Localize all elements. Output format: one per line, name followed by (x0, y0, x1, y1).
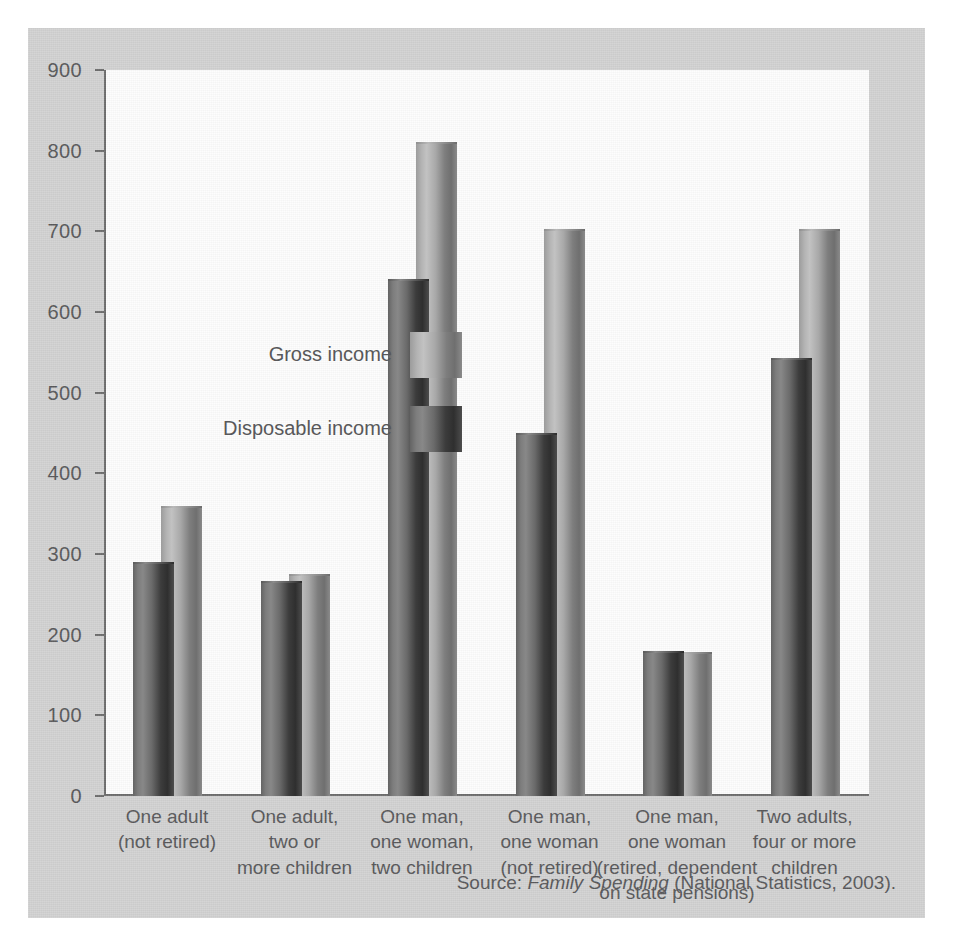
bar-top-cap (516, 433, 557, 435)
legend-item-gross: Gross income (202, 332, 462, 378)
bar-top-cap (544, 229, 585, 231)
y-tick: 700 (95, 230, 104, 232)
y-tick: 100 (95, 714, 104, 716)
bar-top-cap (643, 651, 684, 653)
bar-top-cap (289, 574, 330, 576)
source-suffix: (National Statistics, 2003). (669, 872, 896, 893)
bar-disposable-income (771, 358, 812, 796)
bar-disposable-income (643, 651, 684, 796)
y-tick: 0 (95, 795, 104, 797)
y-tick: 300 (95, 553, 104, 555)
bar-top-cap (161, 506, 202, 508)
chart-figure: 0100200300400500600700800900 Gross incom… (28, 28, 925, 918)
legend-item-disposable: Disposable income (202, 406, 462, 452)
y-tick-label: 0 (70, 785, 82, 808)
y-tick-label: 100 (47, 704, 82, 727)
y-tick: 600 (95, 311, 104, 313)
y-tick-label: 300 (47, 543, 82, 566)
y-tick: 400 (95, 472, 104, 474)
y-tick: 200 (95, 634, 104, 636)
y-tick-label: 500 (47, 381, 82, 404)
bar-top-cap (771, 358, 812, 360)
legend-swatch-disposable (410, 406, 462, 452)
bar-top-cap (799, 229, 840, 231)
source-note: Source: Family Spending (National Statis… (457, 872, 896, 894)
bar-top-cap (416, 142, 457, 144)
y-tick: 800 (95, 150, 104, 152)
y-tick-label: 900 (47, 59, 82, 82)
bar-disposable-income (516, 433, 557, 796)
legend-label-disposable: Disposable income (223, 417, 392, 441)
x-axis-line (104, 794, 869, 796)
bar-top-cap (133, 562, 174, 564)
source-prefix: Source: (457, 872, 528, 893)
legend-swatch-gross (410, 332, 462, 378)
chart-legend: Gross income Disposable income (202, 332, 462, 452)
y-tick: 900 (95, 69, 104, 71)
bar-disposable-income (133, 562, 174, 796)
legend-label-gross: Gross income (269, 343, 392, 367)
bar-disposable-income (261, 581, 302, 796)
source-publication-title: Family Spending (527, 872, 669, 893)
y-tick-label: 400 (47, 462, 82, 485)
y-axis-line (104, 70, 106, 796)
y-tick-label: 200 (47, 623, 82, 646)
plot-area: 0100200300400500600700800900 Gross incom… (104, 70, 869, 796)
y-tick-label: 800 (47, 139, 82, 162)
y-tick-label: 600 (47, 301, 82, 324)
x-axis-category-label: Two adults, four or more children (730, 804, 880, 880)
y-tick-label: 700 (47, 220, 82, 243)
bar-top-cap (388, 279, 429, 281)
bar-top-cap (261, 581, 302, 583)
y-tick: 500 (95, 392, 104, 394)
